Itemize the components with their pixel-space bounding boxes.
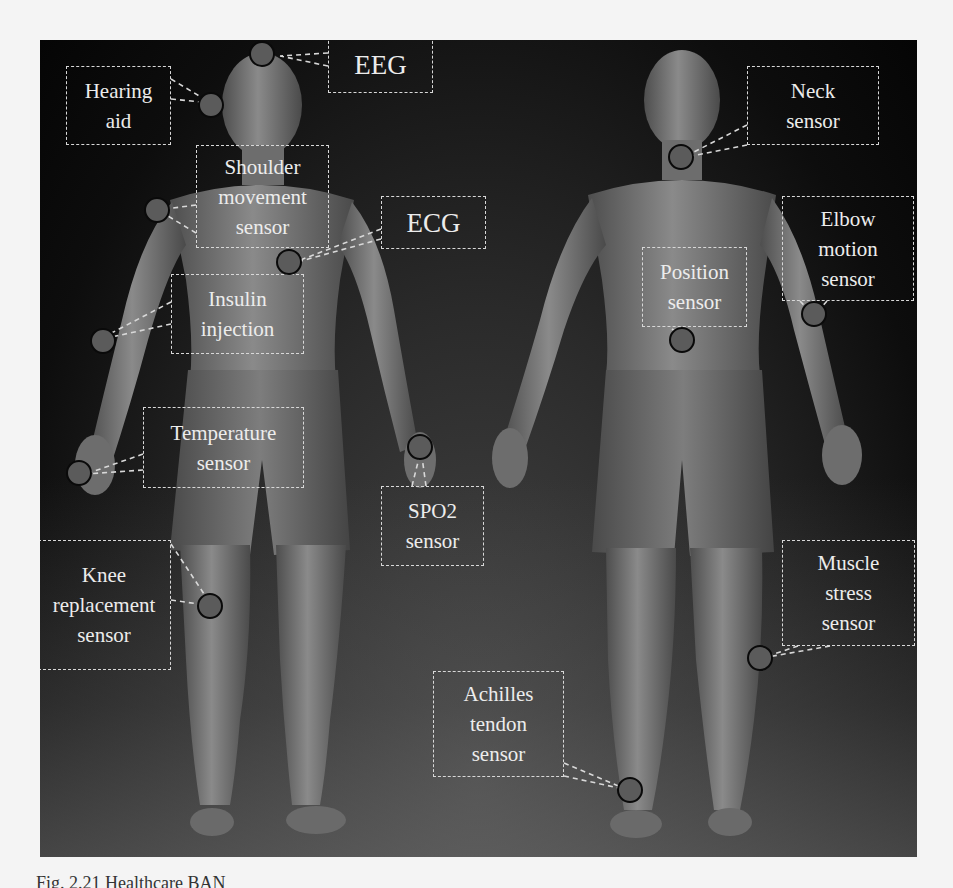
sensor-dot-elbow bbox=[801, 301, 827, 327]
label-text: sensor bbox=[822, 608, 876, 638]
label-text: replacement bbox=[53, 590, 156, 620]
label-text: Shoulder bbox=[225, 152, 301, 182]
label-neck-sensor: Neck sensor bbox=[747, 66, 879, 145]
label-text: sensor bbox=[77, 620, 131, 650]
label-ecg: ECG bbox=[381, 196, 486, 249]
label-achilles-tendon-sensor: Achilles tendon sensor bbox=[433, 671, 564, 777]
label-position-sensor: Position sensor bbox=[642, 247, 747, 327]
label-text: sensor bbox=[406, 526, 460, 556]
sensor-dot-spo2 bbox=[407, 434, 433, 460]
sensor-dot-neck bbox=[668, 144, 694, 170]
label-text: Knee bbox=[82, 560, 126, 590]
sensor-dot-hearing-aid bbox=[198, 92, 224, 118]
label-text: Temperature bbox=[171, 418, 277, 448]
sensor-dot-temperature bbox=[66, 460, 92, 486]
sensor-dot-eeg bbox=[249, 41, 275, 67]
label-muscle-stress-sensor: Muscle stress sensor bbox=[782, 540, 915, 646]
sensor-dot-achilles bbox=[617, 777, 643, 803]
label-text: sensor bbox=[786, 106, 840, 136]
sensor-dot-ecg bbox=[276, 249, 302, 275]
label-text: Muscle bbox=[818, 548, 880, 578]
figure-caption: Fig. 2.21 Healthcare BAN bbox=[36, 873, 225, 888]
label-text: ECG bbox=[407, 208, 461, 238]
label-text: sensor bbox=[472, 739, 526, 769]
label-text: sensor bbox=[197, 448, 251, 478]
sensor-dot-knee bbox=[197, 593, 223, 619]
label-shoulder-movement-sensor: Shoulder movement sensor bbox=[196, 145, 329, 248]
label-temperature-sensor: Temperature sensor bbox=[143, 407, 304, 488]
label-text: movement bbox=[218, 182, 307, 212]
label-insulin-injection: Insulin injection bbox=[171, 274, 304, 354]
label-text: EEG bbox=[354, 50, 406, 80]
label-hearing-aid: Hearing aid bbox=[66, 66, 171, 145]
label-eeg: EEG bbox=[328, 40, 433, 93]
label-text: Hearing bbox=[85, 76, 153, 106]
label-text: sensor bbox=[236, 212, 290, 242]
label-text: Achilles bbox=[464, 679, 534, 709]
label-text: stress bbox=[825, 578, 872, 608]
label-text: SPO2 bbox=[408, 496, 457, 526]
body-area-network-figure: EEG Hearing aid Shoulder movement sensor… bbox=[40, 40, 917, 857]
sensor-dot-insulin bbox=[90, 328, 116, 354]
label-elbow-motion-sensor: Elbow motion sensor bbox=[782, 196, 914, 301]
label-text: Position bbox=[660, 257, 729, 287]
label-knee-replacement-sensor: Knee replacement sensor bbox=[40, 540, 171, 670]
label-text: motion bbox=[818, 234, 878, 264]
label-text: sensor bbox=[668, 287, 722, 317]
label-text: Elbow bbox=[821, 204, 876, 234]
sensor-dot-position bbox=[669, 327, 695, 353]
label-spo2-sensor: SPO2 sensor bbox=[381, 486, 484, 566]
label-text: aid bbox=[106, 106, 132, 136]
label-text: tendon bbox=[470, 709, 527, 739]
sensor-dot-muscle-stress bbox=[747, 645, 773, 671]
label-text: injection bbox=[201, 314, 274, 344]
label-text: sensor bbox=[821, 264, 875, 294]
label-text: Insulin bbox=[208, 284, 266, 314]
sensor-dot-shoulder bbox=[144, 197, 170, 223]
label-text: Neck bbox=[791, 76, 835, 106]
